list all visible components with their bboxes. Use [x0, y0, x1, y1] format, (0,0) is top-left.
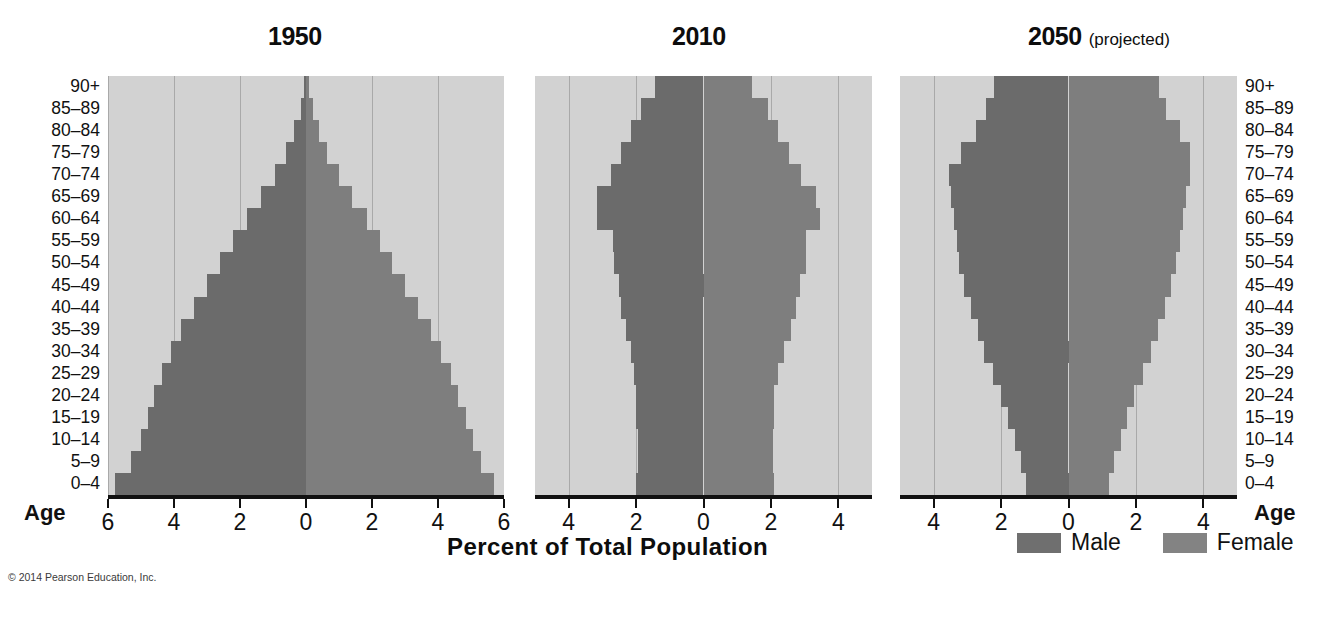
pyramid-row [900, 407, 1237, 429]
age-label-right: 55–59 [1245, 232, 1294, 250]
bar-female [1069, 208, 1184, 230]
age-label-right: 85–89 [1245, 100, 1294, 118]
pyramid-row [535, 429, 872, 451]
pyramid-row [108, 76, 504, 98]
bar-male [986, 98, 1069, 120]
pyramid-row [900, 385, 1237, 407]
pyramid-row [900, 274, 1237, 296]
pyramid-row [900, 76, 1237, 98]
pyramid-row [535, 473, 872, 495]
bar-male [148, 407, 306, 429]
pyramid-row [108, 473, 504, 495]
age-label-left: 20–24 [51, 387, 100, 405]
pyramid-row [108, 341, 504, 363]
pyramid-row [900, 473, 1237, 495]
age-label-left: 70–74 [51, 166, 100, 184]
x-axis-tick-label: 6 [498, 509, 511, 536]
bar-female [306, 319, 431, 341]
x-axis-tick [305, 499, 307, 508]
age-label-left: 25–29 [51, 365, 100, 383]
bar-female [704, 120, 778, 142]
pyramid-row [535, 98, 872, 120]
pyramid-row [108, 407, 504, 429]
pyramid-row [535, 385, 872, 407]
bar-male [638, 451, 704, 473]
pyramid-row [108, 363, 504, 385]
pyramid-row [108, 274, 504, 296]
pyramid-row [108, 164, 504, 186]
bar-female [306, 407, 466, 429]
bar-female [704, 98, 768, 120]
age-label-right: 0–4 [1245, 475, 1274, 493]
bar-male [171, 341, 306, 363]
bar-female [1069, 186, 1187, 208]
age-label-left: 30–34 [51, 343, 100, 361]
x-axis-tick-label: 4 [562, 509, 575, 536]
bar-male [984, 341, 1068, 363]
bar-male [597, 208, 703, 230]
age-label-left: 10–14 [51, 431, 100, 449]
pyramid-row [900, 98, 1237, 120]
x-axis-tick-label: 6 [102, 509, 115, 536]
x-axis-tick [1135, 499, 1137, 508]
age-label-left: 5–9 [71, 453, 100, 471]
age-label-right: 70–74 [1245, 166, 1294, 184]
age-axis-title-right: Age [1254, 500, 1296, 526]
age-label-right: 30–34 [1245, 343, 1294, 361]
pyramid-row [108, 120, 504, 142]
bar-female [704, 297, 797, 319]
pyramid-row [535, 120, 872, 142]
bar-female [1069, 98, 1167, 120]
age-label-right: 5–9 [1245, 453, 1274, 471]
x-axis-tick [437, 499, 439, 508]
age-label-left: 60–64 [51, 210, 100, 228]
bar-female [306, 98, 313, 120]
bar-male [636, 385, 703, 407]
bar-male [194, 297, 306, 319]
x-axis-tick-label: 2 [630, 509, 643, 536]
pyramid-row [108, 98, 504, 120]
bar-female [704, 186, 817, 208]
bar-male [954, 208, 1069, 230]
legend-swatch-female [1163, 533, 1207, 553]
age-label-right: 40–44 [1245, 299, 1294, 317]
bar-female [1069, 164, 1190, 186]
bar-female [704, 385, 775, 407]
bar-male [614, 252, 703, 274]
bar-female [704, 363, 778, 385]
bar-female [306, 274, 405, 296]
bar-male [636, 407, 703, 429]
bar-male [631, 341, 703, 363]
age-label-right: 45–49 [1245, 277, 1294, 295]
bar-male [964, 274, 1068, 296]
bar-female [1069, 385, 1135, 407]
bar-female [306, 451, 481, 473]
x-axis-tick-label: 4 [432, 509, 445, 536]
bar-female [306, 230, 380, 252]
pyramid-chart-2050 [900, 76, 1237, 495]
age-label-right: 65–69 [1245, 188, 1294, 206]
bar-male [286, 142, 306, 164]
bar-male [961, 142, 1069, 164]
bar-female [704, 473, 775, 495]
x-axis-tick [933, 499, 935, 508]
bar-female [704, 208, 820, 230]
bar-female [306, 473, 494, 495]
bar-male [1008, 407, 1069, 429]
bar-male [1021, 451, 1068, 473]
bar-female [1069, 341, 1152, 363]
bar-male [233, 230, 306, 252]
bar-female [1069, 451, 1114, 473]
bar-male [971, 297, 1069, 319]
bar-female [704, 164, 802, 186]
age-label-right: 15–19 [1245, 409, 1294, 427]
bar-female [306, 429, 473, 451]
x-axis-tick [1202, 499, 1204, 508]
bar-female [704, 341, 785, 363]
panel-title-2050-year: 2050 [1028, 22, 1082, 50]
bar-male [261, 186, 306, 208]
x-axis-title: Percent of Total Population [447, 533, 768, 561]
bar-female [1069, 252, 1177, 274]
bar-female [1069, 142, 1190, 164]
pyramid-row [900, 186, 1237, 208]
